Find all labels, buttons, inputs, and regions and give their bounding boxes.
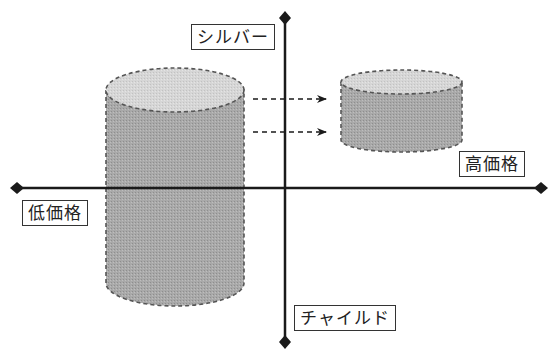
positioning-map [0, 0, 558, 360]
label-child: チャイルド [294, 305, 396, 331]
label-low-price: 低価格 [22, 200, 88, 226]
label-high-price: 高価格 [459, 151, 525, 177]
label-silver: シルバー [191, 24, 275, 50]
diamond-left-icon [10, 182, 24, 194]
small-cylinder [341, 70, 462, 152]
diamond-right-icon [534, 182, 548, 194]
diamond-bottom-icon [279, 335, 291, 349]
axes [10, 11, 548, 349]
diamond-top-icon [279, 11, 291, 25]
